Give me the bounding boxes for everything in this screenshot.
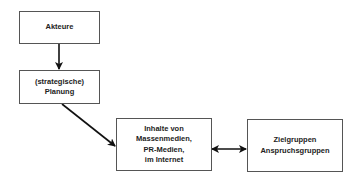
arrow-planung-to-inhalte xyxy=(62,104,115,146)
node-inhalte-label: Inhalte von Massenmedien, PR-Medien, im … xyxy=(136,124,192,165)
node-inhalte: Inhalte von Massenmedien, PR-Medien, im … xyxy=(116,118,212,171)
node-zielgruppen-label: Zielgruppen Anspruchsgruppen xyxy=(260,135,329,155)
node-planung-label: (strategische) Planung xyxy=(35,77,84,97)
node-akteure: Akteure xyxy=(19,11,100,44)
node-akteure-label: Akteure xyxy=(46,22,74,32)
node-zielgruppen: Zielgruppen Anspruchsgruppen xyxy=(247,119,343,172)
node-planung: (strategische) Planung xyxy=(19,70,100,104)
